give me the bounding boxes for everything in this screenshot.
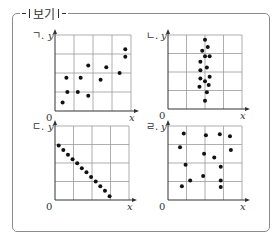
x-axis-label: x <box>240 201 246 212</box>
data-point <box>208 54 212 58</box>
data-point <box>123 55 127 59</box>
data-point <box>203 54 207 58</box>
x-axis-arrow-icon <box>134 109 139 113</box>
data-point <box>71 157 75 161</box>
data-point <box>198 68 202 72</box>
data-point <box>182 131 186 135</box>
plot-label: ㄴ. <box>146 30 158 41</box>
data-point <box>198 60 202 64</box>
data-point <box>64 76 68 80</box>
data-point <box>206 45 210 49</box>
data-point <box>212 155 216 159</box>
y-axis-label: y <box>160 121 167 132</box>
origin-label: 0 <box>46 201 52 212</box>
data-point <box>178 145 182 149</box>
plot-label: ㄷ. <box>32 121 44 132</box>
data-point <box>86 63 90 67</box>
plot-r: ㄹ.yx0 <box>146 120 250 212</box>
data-point <box>123 47 127 51</box>
data-point <box>203 38 207 42</box>
y-axis-label: y <box>47 30 54 41</box>
x-axis-arrow-icon <box>245 198 250 202</box>
data-point <box>57 143 61 147</box>
data-point <box>65 90 69 94</box>
data-point <box>86 94 90 98</box>
data-point <box>229 148 233 152</box>
data-point <box>203 79 207 83</box>
y-axis-label: y <box>160 30 167 41</box>
data-point <box>99 78 103 82</box>
data-point <box>184 163 188 167</box>
data-point <box>228 134 232 138</box>
data-point <box>66 153 70 157</box>
data-point <box>197 85 201 89</box>
data-point <box>219 179 223 183</box>
data-point <box>198 76 202 80</box>
x-axis-arrow-icon <box>132 198 137 202</box>
data-point <box>118 71 122 75</box>
data-point <box>207 83 211 87</box>
data-point <box>202 152 206 156</box>
data-point <box>188 179 192 183</box>
x-axis-arrow-icon <box>245 107 250 111</box>
plot-g: ㄱ.yx0 <box>32 29 139 123</box>
data-point <box>218 132 222 136</box>
data-point <box>84 170 88 174</box>
data-point <box>79 76 83 80</box>
data-point <box>103 189 107 193</box>
plot-label: ㄱ. <box>32 30 44 41</box>
data-point <box>203 99 207 103</box>
data-point <box>205 90 209 94</box>
x-axis-label: x <box>240 110 246 121</box>
data-point <box>208 75 212 79</box>
data-point <box>75 161 79 165</box>
data-point <box>104 65 108 69</box>
data-point <box>205 65 209 69</box>
data-point <box>219 185 223 189</box>
data-point <box>180 184 184 188</box>
plot-n: ㄴ.yx0 <box>146 29 250 121</box>
data-point <box>76 90 80 94</box>
data-point <box>61 100 65 104</box>
plot-d: ㄷ.yx0 <box>32 120 137 212</box>
data-point <box>94 180 98 184</box>
data-point <box>200 49 204 53</box>
y-axis-label: y <box>47 121 54 132</box>
data-point <box>98 184 102 188</box>
scatter-plots: ㄱ.yx0ㄴ.yx0ㄷ.yx0ㄹ.yx0 <box>0 0 275 235</box>
data-point <box>204 133 208 137</box>
data-point <box>61 148 65 152</box>
data-point <box>108 194 112 198</box>
x-axis-label: x <box>129 112 135 123</box>
data-point <box>219 165 223 169</box>
data-point <box>80 166 84 170</box>
data-point <box>89 175 93 179</box>
x-axis-label: x <box>127 201 133 212</box>
origin-label: 0 <box>159 110 165 121</box>
plot-label: ㄹ. <box>146 121 158 132</box>
origin-label: 0 <box>159 201 165 212</box>
data-point <box>201 174 205 178</box>
